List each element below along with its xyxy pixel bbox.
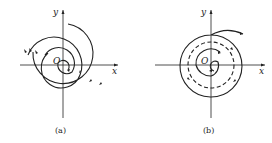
outer-spiral-b bbox=[180, 31, 243, 97]
caption-a: (a) bbox=[55, 126, 66, 135]
figure-b: y x O (b) bbox=[155, 7, 265, 135]
figure-a: y x O (a) bbox=[20, 7, 118, 135]
y-label-b: y bbox=[200, 7, 207, 17]
phase-portrait-diagram: y x O (a) y x O (b) bbox=[0, 0, 272, 143]
origin-label-a: O bbox=[53, 56, 61, 66]
origin-label-b: O bbox=[201, 56, 209, 66]
caption-b: (b) bbox=[203, 126, 214, 135]
y-label-a: y bbox=[52, 7, 59, 17]
spiral-a bbox=[28, 24, 93, 88]
x-label-a: x bbox=[112, 66, 117, 76]
x-label-b: x bbox=[259, 66, 264, 76]
